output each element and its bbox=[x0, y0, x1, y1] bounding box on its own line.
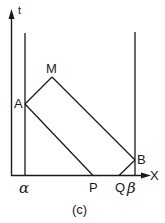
alpha-label: α bbox=[19, 181, 29, 196]
point-label-M: M bbox=[46, 62, 57, 75]
t-axis-arrow-icon bbox=[9, 9, 15, 19]
segment-Q-B bbox=[119, 160, 135, 176]
t-axis-label: t bbox=[18, 5, 21, 16]
point-label-P: P bbox=[89, 181, 98, 194]
figure-caption: (c) bbox=[72, 203, 87, 216]
beta-label: β bbox=[127, 181, 136, 196]
segment-A-P bbox=[25, 104, 93, 176]
point-label-A: A bbox=[14, 97, 23, 110]
x-axis-label: X bbox=[150, 169, 159, 182]
segment-M-B bbox=[52, 77, 135, 160]
point-label-B: B bbox=[137, 153, 146, 166]
point-label-Q: Q bbox=[115, 181, 125, 194]
segment-A-M bbox=[25, 77, 52, 104]
